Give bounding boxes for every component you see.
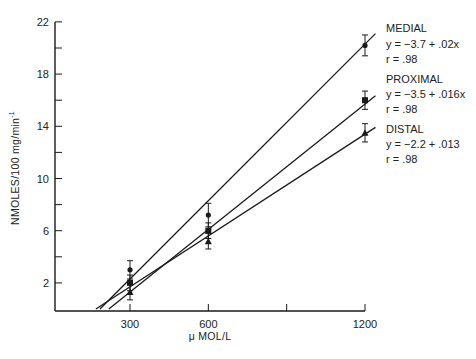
regression-line-distal	[96, 127, 376, 309]
y-tick-label: 10	[37, 173, 49, 185]
legend-proximal-name: PROXIMAL	[386, 73, 443, 85]
legend-medial: MEDIAL y = −3.7 + .02x r = .98	[386, 22, 460, 65]
axes: 26101418223006001200	[37, 16, 377, 330]
legend-distal: DISTAL y = −2.2 + .013 r = .98	[386, 123, 460, 165]
data-point-distal	[205, 233, 212, 249]
legend-distal-equation: y = −2.2 + .013	[386, 138, 460, 150]
circle-marker-icon	[127, 267, 132, 272]
y-axis-title: NMOLES/100 mg/min-1	[8, 111, 21, 225]
legend-distal-r: r = .98	[386, 153, 418, 165]
regression-lines	[96, 34, 376, 309]
square-marker-icon	[205, 228, 211, 234]
y-tick-label: 14	[37, 120, 49, 132]
circle-marker-icon	[362, 43, 367, 48]
y-axis-title-group: NMOLES/100 mg/min-1	[8, 111, 21, 225]
legend-proximal: PROXIMAL y = −3.5 + .016x r = .98	[386, 73, 466, 115]
x-axis-title: μ MOL/L	[189, 330, 232, 342]
data-point-medial	[362, 35, 368, 56]
legend-medial-equation: y = −3.7 + .02x	[386, 38, 460, 50]
legend-proximal-equation: y = −3.5 + .016x	[386, 88, 466, 100]
data-point-distal	[127, 284, 134, 300]
y-tick-label: 6	[43, 225, 49, 237]
circle-marker-icon	[206, 212, 211, 217]
regression-line-proximal	[109, 96, 376, 309]
regression-line-medial	[100, 34, 375, 309]
x-tick-label: 1200	[353, 318, 377, 330]
legend-medial-name: MEDIAL	[386, 22, 427, 34]
y-tick-label: 18	[37, 68, 49, 80]
legend-distal-name: DISTAL	[386, 123, 424, 135]
x-tick-label: 600	[199, 318, 217, 330]
legend-proximal-r: r = .98	[386, 103, 418, 115]
y-tick-label: 22	[37, 16, 49, 28]
square-marker-icon	[362, 97, 368, 103]
data-points	[127, 35, 369, 300]
x-tick-label: 300	[121, 318, 139, 330]
legend-medial-r: r = .98	[386, 53, 418, 65]
scatter-chart: 26101418223006001200 μ MOL/L NMOLES/100 …	[0, 0, 476, 359]
y-tick-label: 2	[43, 277, 49, 289]
